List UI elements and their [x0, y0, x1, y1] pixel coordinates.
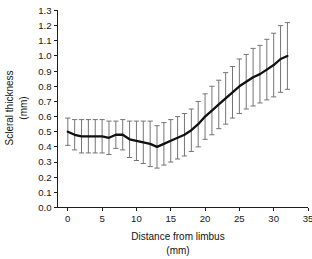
axis-lines [58, 11, 309, 208]
y-tick-label: 0.8 [38, 81, 51, 92]
y-tick-label: 1.0 [38, 50, 51, 61]
y-tick-label: 0.0 [38, 202, 51, 213]
y-tick-label: 0.7 [38, 96, 51, 107]
y-tick-label: 1.3 [38, 5, 51, 16]
y-axis-title-line2: (mm) [18, 96, 29, 119]
tick-labels-group: 0.00.10.20.30.40.50.60.70.80.91.01.11.21… [38, 5, 312, 224]
y-tick-label: 0.5 [38, 126, 51, 137]
x-tick-label: 30 [268, 213, 279, 224]
y-tick-label: 0.3 [38, 156, 51, 167]
y-tick-label: 0.2 [38, 172, 51, 183]
y-tick-label: 0.1 [38, 187, 51, 198]
y-axis-title-line1: Scleral thickness [4, 70, 15, 145]
axes-group [54, 11, 308, 212]
y-tick-label: 0.4 [38, 141, 52, 152]
x-tick-label: 5 [99, 213, 104, 224]
x-tick-label: 10 [131, 213, 142, 224]
y-tick-label: 0.6 [38, 111, 51, 122]
x-tick-label: 20 [200, 213, 211, 224]
chart-figure: 0.00.10.20.30.40.50.60.70.80.91.01.11.21… [0, 0, 312, 259]
y-tick-label: 0.9 [38, 66, 51, 77]
error-bars-group [65, 23, 290, 168]
x-tick-label: 35 [303, 213, 312, 224]
x-tick-label: 15 [165, 213, 176, 224]
x-tick-label: 0 [65, 213, 70, 224]
axis-titles-group: Distance from limbus (mm) Scleral thickn… [4, 70, 225, 256]
y-tick-label: 1.1 [38, 35, 51, 46]
x-axis-title-line2: (mm) [166, 245, 189, 256]
x-axis-title-line1: Distance from limbus [131, 231, 224, 242]
x-tick-label: 25 [234, 213, 245, 224]
scleral-thickness-line-chart: 0.00.10.20.30.40.50.60.70.80.91.01.11.21… [0, 0, 312, 259]
y-tick-label: 1.2 [38, 20, 51, 31]
